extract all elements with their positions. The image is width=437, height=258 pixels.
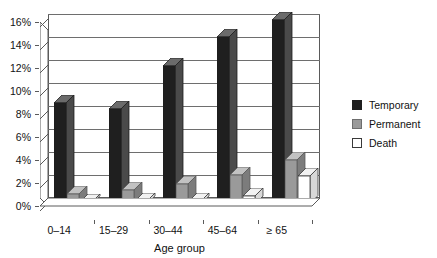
y-axis-tick-mark [35,183,39,184]
y-axis-tick-label: 8% [0,109,31,119]
chart-figure: 0%2%4%6%8%10%12%14%16% 0–1415–2930–4445–… [0,0,437,258]
x-axis-tick-mark [312,220,313,224]
bars-layer [40,14,320,206]
y-axis-tick-label: 0% [0,201,31,211]
x-axis-tick-label: 0–14 [32,224,86,236]
y-axis-tick-mark [35,137,39,138]
y-axis-tick-label: 2% [0,178,31,188]
y-axis-tick-label: 12% [0,63,31,73]
y-axis-tick-label: 4% [0,155,31,165]
y-axis-tick-label: 10% [0,86,31,96]
y-axis-tick-mark [35,22,39,23]
x-axis-tick-label: 30–44 [141,224,195,236]
temporary-swatch-icon [352,100,362,110]
y-axis-tick-mark [35,114,39,115]
legend-label-death: Death [369,137,397,149]
y-axis-tick-label: 16% [0,17,31,27]
plot-area: 0–1415–2930–4445–64≥ 65 Age group [40,14,320,206]
y-axis-tick-mark [35,45,39,46]
x-axis-tick-label: 15–29 [86,224,140,236]
chart-legend: Temporary Permanent Death [352,95,420,152]
legend-item-permanent: Permanent [352,114,420,133]
legend-item-temporary: Temporary [352,95,420,114]
y-axis-tick-label: 6% [0,132,31,142]
death-swatch-icon [352,138,362,148]
y-axis-tick-label: 14% [0,40,31,50]
legend-label-permanent: Permanent [369,118,420,130]
plot-floor [40,198,320,206]
y-axis-tick-mark [35,160,39,161]
y-axis-tick-mark [35,68,39,69]
x-axis-tick-label: 45–64 [195,224,249,236]
x-axis-title: Age group [0,242,437,254]
y-axis-tick-mark [35,206,39,207]
legend-item-death: Death [352,133,420,152]
permanent-swatch-icon [352,119,362,129]
legend-label-temporary: Temporary [369,99,419,111]
y-axis-tick-mark [35,91,39,92]
x-axis-tick-label: ≥ 65 [250,224,304,236]
x-axis-title-text: Age group [154,242,205,254]
